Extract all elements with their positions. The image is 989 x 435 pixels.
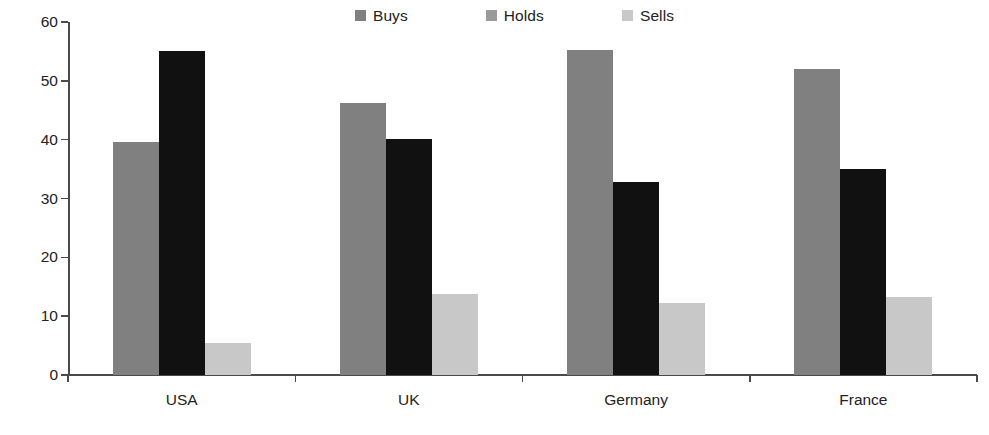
x-category-label-uk: UK bbox=[398, 392, 420, 408]
y-tick-mark bbox=[61, 80, 68, 82]
x-category-label-france: France bbox=[839, 392, 887, 408]
bar-holds-germany bbox=[613, 182, 659, 375]
x-tick-mark bbox=[976, 375, 978, 382]
legend-swatch-buys-icon bbox=[355, 10, 366, 21]
bar-sells-germany bbox=[659, 303, 705, 375]
y-tick-mark bbox=[61, 315, 68, 317]
y-tick-mark bbox=[61, 198, 68, 200]
bar-buys-uk bbox=[340, 103, 386, 375]
y-tick-label: 40 bbox=[8, 132, 58, 148]
y-tick-label: 60 bbox=[8, 14, 58, 30]
y-tick-label: 50 bbox=[8, 73, 58, 89]
bar-chart: Buys Holds Sells 0102030405060 USAUKGerm… bbox=[0, 0, 989, 435]
bar-holds-uk bbox=[386, 139, 432, 375]
y-tick-label: 0 bbox=[8, 367, 58, 383]
y-tick-mark bbox=[61, 257, 68, 259]
bar-buys-france bbox=[794, 69, 840, 375]
bar-sells-uk bbox=[432, 294, 478, 375]
legend-swatch-holds-icon bbox=[486, 10, 497, 21]
y-tick-label: 20 bbox=[8, 250, 58, 266]
bar-sells-france bbox=[886, 297, 932, 375]
x-tick-mark bbox=[67, 375, 69, 382]
bar-buys-usa bbox=[113, 142, 159, 375]
bar-sells-usa bbox=[205, 343, 251, 375]
bar-buys-germany bbox=[567, 50, 613, 375]
legend-swatch-sells-icon bbox=[622, 10, 633, 21]
bar-holds-usa bbox=[159, 51, 205, 375]
x-tick-mark bbox=[522, 375, 524, 382]
x-category-label-usa: USA bbox=[166, 392, 198, 408]
y-tick-mark bbox=[61, 139, 68, 141]
x-tick-mark bbox=[295, 375, 297, 382]
y-tick-mark bbox=[61, 21, 68, 23]
y-tick-label: 30 bbox=[8, 191, 58, 207]
x-tick-mark bbox=[749, 375, 751, 382]
bars-layer bbox=[68, 22, 977, 375]
x-category-label-germany: Germany bbox=[604, 392, 668, 408]
y-tick-label: 10 bbox=[8, 308, 58, 324]
bar-holds-france bbox=[840, 169, 886, 375]
